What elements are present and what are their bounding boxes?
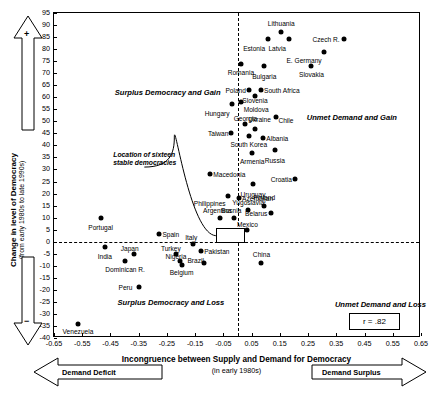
y-tick-label: 75 <box>4 58 54 65</box>
correlation-box: r = .82 <box>349 313 400 330</box>
scatter-plot-area: 95908580757065605550454035302520151050-5… <box>53 12 420 337</box>
x-tick-mark <box>421 333 422 336</box>
y-tick-label: 85 <box>4 33 54 40</box>
y-tick-label: 95 <box>4 9 54 16</box>
x-tick-label: 0.25 <box>301 340 315 347</box>
callout-leader-line <box>54 13 421 338</box>
x-tick-label: -0.55 <box>74 340 90 347</box>
y-tick-label: 20 <box>4 190 54 197</box>
stable-democracies-box <box>216 228 244 243</box>
correlation-value: r = .82 <box>363 317 386 326</box>
chart-root: + Change in level of Democracy (from ear… <box>0 0 430 396</box>
y-tick-label: -10 <box>4 262 54 269</box>
y-tick-label: 40 <box>4 142 54 149</box>
y-tick-label: -25 <box>4 298 54 305</box>
x-tick-label: 0.35 <box>329 340 343 347</box>
y-tick-label: -15 <box>4 274 54 281</box>
y-tick-label: 90 <box>4 21 54 28</box>
y-tick-label: -5 <box>4 250 54 257</box>
y-tick-label: -35 <box>4 322 54 329</box>
y-tick-label: 15 <box>4 202 54 209</box>
demand-surplus-label: Demand Surplus <box>322 368 381 377</box>
x-tick-label: -0.45 <box>102 340 118 347</box>
y-tick-label: 55 <box>4 106 54 113</box>
y-tick-label: 30 <box>4 166 54 173</box>
y-tick-label: 80 <box>4 46 54 53</box>
y-tick-label: 10 <box>4 214 54 221</box>
x-tick-label: 0.65 <box>414 340 428 347</box>
y-tick-label: 0 <box>4 238 54 245</box>
x-tick-label: 0.05 <box>245 340 259 347</box>
x-tick-label: 0.55 <box>386 340 400 347</box>
x-tick-label: -0.15 <box>187 340 203 347</box>
x-tick-label: -0.65 <box>46 340 62 347</box>
demand-deficit-label: Demand Deficit <box>62 368 116 377</box>
y-tick-label: 25 <box>4 178 54 185</box>
x-tick-label: -0.25 <box>159 340 175 347</box>
x-tick-label: 0.15 <box>273 340 287 347</box>
y-tick-label: 65 <box>4 82 54 89</box>
y-tick-label: 5 <box>4 226 54 233</box>
x-tick-label: -0.35 <box>130 340 146 347</box>
y-tick-label: 60 <box>4 94 54 101</box>
y-tick-label: 50 <box>4 118 54 125</box>
x-tick-label: -0.05 <box>215 340 231 347</box>
y-tick-label: 45 <box>4 130 54 137</box>
y-tick-label: -20 <box>4 286 54 293</box>
y-tick-label: 70 <box>4 70 54 77</box>
y-tick-label: 35 <box>4 154 54 161</box>
x-tick-label: 0.45 <box>358 340 372 347</box>
y-tick-label: -30 <box>4 310 54 317</box>
